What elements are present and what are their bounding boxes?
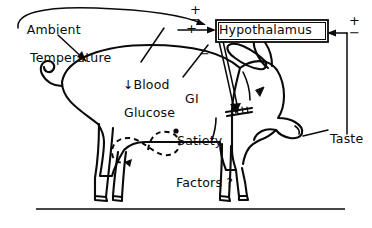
pig-eye [256, 87, 264, 96]
pig-ear-front [227, 44, 266, 69]
sign-blood-glucose-positive: + [186, 22, 197, 35]
pig-feeding-regulation-diagram: Ambient Temperature ↓Blood Glucose GI Sa… [0, 0, 372, 228]
arrowhead-plus-into-hypothalamus [207, 27, 216, 34]
leader-taste-to-snout [303, 130, 328, 136]
label-ambient-temperature: Ambient Temperature [10, 9, 111, 93]
label-hypothalamus: Hypothalamus [219, 23, 312, 37]
label-gi-satiety-factors: GI Satiety Factors ? [176, 64, 233, 218]
label-taste: Taste [330, 132, 363, 146]
sign-taste-negative: − [349, 26, 360, 39]
label-ambient-temperature-line1: Ambient [27, 22, 81, 37]
label-ambient-temperature-line2: Temperature [10, 51, 111, 65]
label-blood-glucose: ↓Blood Glucose [106, 64, 175, 148]
pig-neck-crease [243, 72, 250, 100]
label-gi-satiety-line2: Satiety [176, 134, 233, 148]
pig-fore-leg-front [236, 168, 247, 196]
label-blood-glucose-line1: ↓Blood [123, 77, 170, 92]
label-gi-satiety-line1: GI [176, 92, 233, 106]
label-blood-glucose-line2: Glucose [106, 106, 175, 120]
sign-gi-satiety-negative: − [199, 47, 210, 60]
pig-snout-tip [295, 126, 299, 134]
label-gi-satiety-line3: Factors ? [176, 176, 233, 190]
